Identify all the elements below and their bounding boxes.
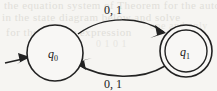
- transition-arc-top: [78, 20, 164, 34]
- transition-label-top: 0, 1: [104, 3, 122, 17]
- transition-label-bottom: 0, 1: [104, 77, 122, 91]
- state-q1-outer-circle[interactable]: [160, 25, 212, 77]
- arrowhead-into-q1: [150, 25, 166, 38]
- transition-q1-to-q0: [75, 58, 165, 76]
- automaton-state-diagram: the equation system of Theorem for the a…: [0, 0, 217, 91]
- state-q1[interactable]: q1: [160, 25, 212, 77]
- state-q0-circle[interactable]: [27, 25, 83, 81]
- state-q0[interactable]: q0: [27, 25, 83, 81]
- transition-q0-to-q1: [78, 20, 166, 38]
- automaton-canvas: q0 q1 0, 1 0, 1: [0, 0, 217, 91]
- transition-arc-bottom: [77, 64, 165, 76]
